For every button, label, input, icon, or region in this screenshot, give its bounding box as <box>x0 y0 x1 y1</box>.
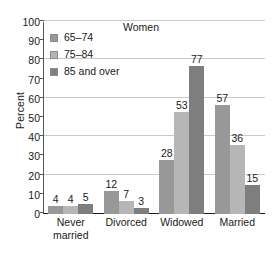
y-axis-tick <box>40 20 44 21</box>
y-axis-tick <box>40 78 44 79</box>
y-axis-tick <box>40 58 44 59</box>
y-axis-tick-label: 90 <box>18 36 40 46</box>
y-axis-tick-label: 10 <box>18 190 40 200</box>
y-axis-tick-label: 80 <box>18 55 40 65</box>
legend-label: 85 and over <box>64 66 119 77</box>
legend-swatch-icon <box>50 34 58 42</box>
gridline <box>44 135 265 136</box>
x-axis-label: Married <box>210 216 266 229</box>
legend-item: 85 and over <box>50 64 119 79</box>
gridline <box>44 174 265 175</box>
legend-item: 75–84 <box>50 47 119 62</box>
y-axis-tick-label: 100 <box>18 17 40 27</box>
y-axis-tick <box>40 212 44 213</box>
y-axis-tick-label: 20 <box>18 171 40 181</box>
legend-label: 65–74 <box>64 32 93 43</box>
y-axis-tick-label: 30 <box>18 151 40 161</box>
legend-item: 65–74 <box>50 30 119 45</box>
x-axis-label: Nevermarried <box>43 216 99 241</box>
x-axis-label: Widowed <box>154 216 210 229</box>
x-axis-labels: NevermarriedDivorcedWidowedMarried <box>43 216 265 256</box>
y-axis-tick-label: 60 <box>18 94 40 104</box>
y-axis-tick <box>40 154 44 155</box>
y-axis-tick-label: 40 <box>18 132 40 142</box>
legend-swatch-icon <box>50 51 58 59</box>
y-axis-tick <box>40 39 44 40</box>
y-axis-tick-label: 0 <box>18 209 40 219</box>
legend-label: 75–84 <box>64 49 93 60</box>
y-axis-tick <box>40 193 44 194</box>
gridline <box>44 97 265 98</box>
legend-swatch-icon <box>50 68 58 76</box>
bar-chart: Percent 1009080706050403020100 Women 65–… <box>0 0 272 275</box>
y-axis-tick <box>40 174 44 175</box>
y-axis-tick <box>40 135 44 136</box>
x-axis-label: Divorced <box>99 216 155 229</box>
y-axis-tick-label: 50 <box>18 113 40 123</box>
y-axis-tick <box>40 116 44 117</box>
y-axis-tick <box>40 97 44 98</box>
y-axis-tick-label: 70 <box>18 75 40 85</box>
y-axis-tick-labels: 1009080706050403020100 <box>16 22 40 214</box>
chart-title: Women <box>123 21 159 33</box>
legend: 65–7475–8485 and over <box>50 30 119 81</box>
